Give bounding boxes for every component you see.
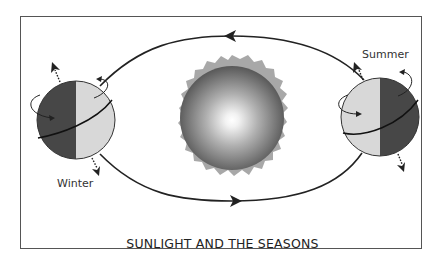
diagram-canvas xyxy=(0,0,445,266)
axis-arrow-icon xyxy=(51,62,60,73)
diagram-title: SUNLIGHT AND THE SEASONS xyxy=(0,236,445,251)
axis-arrow-icon xyxy=(353,62,362,73)
winter-label: Winter xyxy=(57,177,93,190)
sun-body xyxy=(180,66,284,170)
summer-label: Summer xyxy=(362,48,409,61)
earth-winter xyxy=(31,62,116,176)
earth-summer xyxy=(339,62,420,172)
axis-arrow-icon xyxy=(397,162,405,172)
sun xyxy=(178,55,288,176)
